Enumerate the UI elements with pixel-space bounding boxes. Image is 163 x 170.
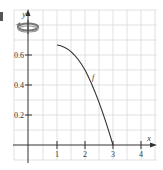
grid bbox=[14, 10, 157, 160]
curve-label: f bbox=[92, 73, 96, 82]
x-axis-arrow-icon bbox=[150, 143, 157, 148]
x-tick-label: 1 bbox=[55, 150, 59, 159]
x-tick-label: 3 bbox=[111, 150, 115, 159]
y-axis-label: y bbox=[21, 10, 26, 19]
x-axis-label: x bbox=[146, 134, 151, 143]
y-tick-label: 0.2 bbox=[14, 111, 24, 120]
axes bbox=[13, 13, 153, 163]
rotate-around-y-axis-icon bbox=[16, 20, 38, 34]
x-tick-label: 2 bbox=[83, 150, 87, 159]
y-tick-label: 0.6 bbox=[14, 51, 24, 60]
graph: 1 2 3 4 x 0.2 0.4 0.6 y f bbox=[0, 0, 163, 170]
x-tick-label: 4 bbox=[139, 150, 143, 159]
y-tick-label: 0.4 bbox=[14, 81, 24, 90]
